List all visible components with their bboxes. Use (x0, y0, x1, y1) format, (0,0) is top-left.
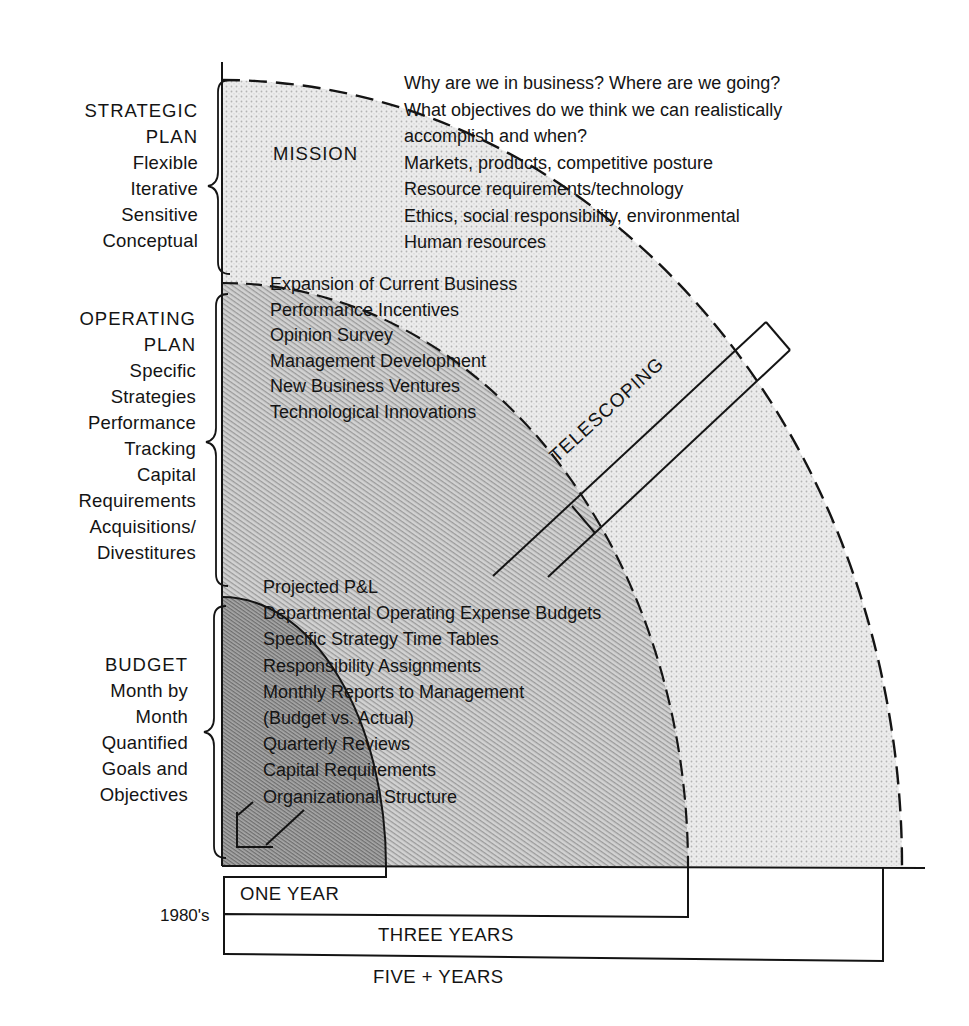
strategic-plan-heading: STRATEGIC (30, 98, 198, 124)
list-item: Expansion of Current Business (270, 272, 517, 298)
operating-trait: Requirements (20, 488, 196, 514)
list-item: Resource requirements/technology (404, 176, 782, 203)
three-years-label: THREE YEARS (378, 924, 514, 946)
operating-items: Expansion of Current Business Performanc… (270, 272, 517, 425)
budget-trait: Quantified (30, 730, 188, 756)
strategic-trait: Sensitive (30, 202, 198, 228)
operating-trait: Capital (20, 462, 196, 488)
operating-trait: Divestitures (20, 540, 196, 566)
strategic-trait: Flexible (30, 150, 198, 176)
list-item: Monthly Reports to Management (263, 679, 601, 705)
list-item: Management Development (270, 349, 517, 375)
list-item: Markets, products, competitive posture (404, 150, 782, 177)
list-item: Performance Incentives (270, 298, 517, 324)
budget-label: BUDGET Month by Month Quantified Goals a… (30, 652, 188, 808)
list-item: New Business Ventures (270, 374, 517, 400)
budget-trait: Objectives (30, 782, 188, 808)
list-item: Capital Requirements (263, 757, 601, 783)
operating-trait: Strategies (20, 384, 196, 410)
list-item: Quarterly Reviews (263, 731, 601, 757)
operating-trait: Acquisitions/ (20, 514, 196, 540)
list-item: Projected P&L (263, 574, 601, 600)
budget-trait: Month by (30, 678, 188, 704)
budget-items: Projected P&L Departmental Operating Exp… (263, 574, 601, 810)
budget-trait: Month (30, 704, 188, 730)
list-item: accomplish and when? (404, 123, 782, 150)
five-plus-years-label: FIVE + YEARS (373, 966, 504, 988)
list-item: Human resources (404, 229, 782, 256)
budget-heading: BUDGET (30, 652, 188, 678)
strategic-trait: Conceptual (30, 228, 198, 254)
list-item: Organizational Structure (263, 784, 601, 810)
one-year-label: ONE YEAR (240, 883, 339, 905)
list-item: Responsibility Assignments (263, 653, 601, 679)
operating-plan-heading: OPERATING (20, 306, 196, 332)
list-item: Opinion Survey (270, 323, 517, 349)
operating-trait: Performance (20, 410, 196, 436)
list-item: Technological Innovations (270, 400, 517, 426)
list-item: What objectives do we think we can reali… (404, 97, 782, 124)
strategic-trait: Iterative (30, 176, 198, 202)
strategic-plan-heading-2: PLAN (30, 124, 198, 150)
list-item: Ethics, social responsibility, environme… (404, 203, 782, 230)
list-item: Specific Strategy Time Tables (263, 626, 601, 652)
operating-trait: Specific (20, 358, 196, 384)
list-item: Why are we in business? Where are we goi… (404, 70, 782, 97)
horizontal-axis (222, 866, 925, 868)
decade-label: 1980's (160, 906, 210, 926)
mission-items: Why are we in business? Where are we goi… (404, 70, 782, 256)
list-item: Departmental Operating Expense Budgets (263, 600, 601, 626)
list-item: (Budget vs. Actual) (263, 705, 601, 731)
mission-label: MISSION (273, 143, 358, 165)
operating-trait: Tracking (20, 436, 196, 462)
operating-plan-label: OPERATING PLAN Specific Strategies Perfo… (20, 306, 196, 566)
strategic-plan-label: STRATEGIC PLAN Flexible Iterative Sensit… (30, 98, 198, 254)
operating-plan-heading-2: PLAN (20, 332, 196, 358)
budget-trait: Goals and (30, 756, 188, 782)
